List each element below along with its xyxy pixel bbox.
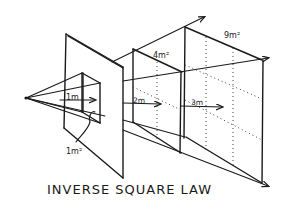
light-source-point xyxy=(24,96,27,99)
label-4m2: 4m² xyxy=(153,51,169,60)
label-2m: 2m xyxy=(133,96,145,105)
label-1m2: 1m² xyxy=(66,147,82,156)
diagram-title: INVERSE SQUARE LAW xyxy=(47,182,212,197)
plane-1m xyxy=(64,34,123,178)
label-9m2: 9m² xyxy=(224,31,240,40)
label-1m: 1m xyxy=(66,93,79,102)
label-3m: 3m xyxy=(191,98,203,107)
inverse-square-law-diagram: 1m 1m² 4m² 2m 9m² 3m INVERSE SQUARE LAW xyxy=(0,0,283,208)
square-1m2 xyxy=(82,73,100,123)
